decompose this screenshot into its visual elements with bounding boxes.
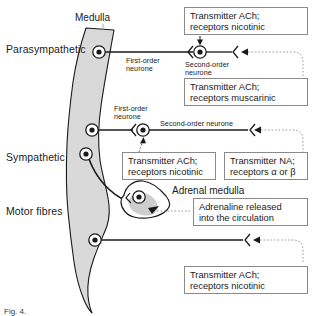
spinal-cord-shape bbox=[66, 28, 114, 313]
row-label-sympathetic: Sympathetic bbox=[6, 152, 65, 164]
symp-adrenal-cord-cell-body bbox=[80, 148, 92, 160]
para-cord-cell-body bbox=[93, 46, 105, 58]
callout-line-2: receptors nicotinic bbox=[190, 22, 302, 33]
callout-line-1: Transmitter ACh; bbox=[190, 11, 302, 22]
para-ganglion-cell-body bbox=[194, 46, 206, 58]
callout-line-2: receptors α or β bbox=[230, 167, 302, 178]
para-effector-arrowhead bbox=[241, 49, 248, 56]
structure-label-adrenal-medulla: Adrenal medulla bbox=[172, 185, 244, 196]
annotation-symp-second-order-neurone: Second-order neurone bbox=[160, 120, 233, 128]
row-label-motor-fibres: Motor fibres bbox=[6, 206, 63, 218]
callout-line-1: Transmitter ACh; bbox=[190, 82, 302, 93]
motor-cord-cell-body bbox=[89, 234, 101, 246]
callout-line-1: Transmitter ACh; bbox=[190, 270, 302, 281]
annotation-para-first-order-neurone: First-order neurone bbox=[126, 57, 160, 74]
motor-endplate-synapse-icon bbox=[245, 234, 250, 246]
callout-line-1: Transmitter ACh; bbox=[128, 156, 210, 167]
symp-nicotinic-callout-arrow bbox=[139, 137, 146, 152]
para-nicotinic-callout-arrow bbox=[197, 36, 203, 46]
callout-line-1: Transmitter NA; bbox=[230, 156, 302, 167]
row-label-parasympathetic: Parasympathetic bbox=[6, 44, 86, 56]
structure-label-medulla: Medulla bbox=[75, 12, 110, 23]
callout-line-2: receptors nicotinic bbox=[190, 281, 302, 292]
callout-line-2: receptors muscarinic bbox=[190, 93, 302, 104]
callout-line-2: receptors nicotinic bbox=[128, 167, 210, 178]
symp-effector-arrowhead bbox=[254, 127, 261, 134]
annotation-symp-first-order-neurone: First-order neurone bbox=[114, 105, 148, 122]
symp-cord-cell-body bbox=[86, 124, 98, 136]
annotation-para-second-order-neurone: Second-order neurone bbox=[185, 61, 229, 78]
annotation-line-2: neurone bbox=[114, 112, 141, 121]
symp-ganglion-synapse-icon bbox=[131, 124, 136, 136]
symp-ganglion-cell-body bbox=[137, 124, 149, 136]
motor-callout-dotted-connector bbox=[260, 240, 303, 264]
annotation-line-2: neurone bbox=[126, 64, 153, 73]
callout-adrenaline-release: Adrenaline released into the circulation bbox=[193, 198, 308, 226]
callout-motor-endplate-transmitter: Transmitter ACh; receptors nicotinic bbox=[184, 266, 308, 294]
callout-line-2: into the circulation bbox=[199, 213, 302, 224]
callout-line-1: Adrenaline released bbox=[199, 202, 302, 213]
para-effector-synapse-icon bbox=[233, 46, 238, 58]
figure-caption: Fig. 4. bbox=[4, 307, 26, 316]
callout-para-ganglion-transmitter: Transmitter ACh; receptors nicotinic bbox=[184, 7, 308, 35]
annotation-line-2: neurone bbox=[185, 68, 212, 77]
callout-symp-ganglion-transmitter: Transmitter ACh; receptors nicotinic bbox=[122, 152, 216, 180]
autonomic-nervous-system-figure: Parasympathetic Sympathetic Motor fibres… bbox=[0, 0, 313, 316]
callout-para-effector-transmitter: Transmitter ACh; receptors muscarinic bbox=[184, 78, 308, 106]
callout-symp-effector-transmitter: Transmitter NA; receptors α or β bbox=[224, 152, 308, 180]
motor-endplate-arrowhead bbox=[253, 237, 260, 244]
adrenal-chromaffin-cell-body bbox=[133, 191, 145, 203]
symp-na-dotted-connector bbox=[261, 130, 303, 152]
para-muscarinic-dotted-connector bbox=[248, 52, 303, 76]
